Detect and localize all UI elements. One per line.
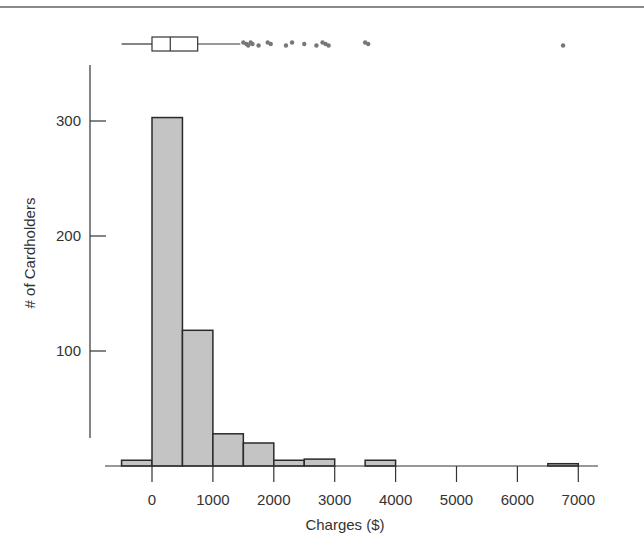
y-ticks: 100200300 (56, 112, 106, 359)
histogram-bar (304, 459, 334, 466)
y-tick-label: 100 (56, 342, 81, 359)
x-tick-label: 5000 (440, 491, 473, 508)
x-tick-label: 6000 (501, 491, 534, 508)
histogram-bar (365, 460, 395, 466)
boxplot-outlier (302, 42, 306, 46)
histogram-chart: 100200300 01000200030004000500060007000 … (0, 0, 644, 560)
boxplot-outlier (250, 42, 254, 46)
histogram-bars (122, 118, 579, 466)
x-tick-label: 0 (148, 491, 156, 508)
x-axis-title: Charges ($) (305, 516, 384, 533)
boxplot-outlier (290, 40, 294, 44)
y-tick-label: 300 (56, 112, 81, 129)
boxplot-outlier (314, 43, 318, 47)
x-tick-label: 2000 (257, 491, 290, 508)
histogram-bar (152, 118, 182, 466)
boxplot-outlier (326, 43, 330, 47)
y-axis-title: # of Cardholders (21, 198, 38, 309)
histogram-bar (182, 330, 212, 466)
histogram-bar (213, 434, 243, 466)
histogram-bar (122, 460, 152, 466)
histogram-bar (243, 443, 273, 466)
x-tick-label: 7000 (562, 491, 595, 508)
histogram-bar (274, 460, 304, 466)
boxplot-outlier (256, 43, 260, 47)
y-tick-label: 200 (56, 227, 81, 244)
boxplot (122, 37, 566, 51)
x-tick-label: 1000 (196, 491, 229, 508)
boxplot-box (152, 37, 198, 51)
boxplot-outlier (269, 42, 273, 46)
boxplot-outlier (366, 42, 370, 46)
x-tick-label: 4000 (379, 491, 412, 508)
x-ticks: 01000200030004000500060007000 (148, 466, 595, 508)
x-tick-label: 3000 (318, 491, 351, 508)
boxplot-outlier (561, 43, 565, 47)
boxplot-outlier (284, 43, 288, 47)
